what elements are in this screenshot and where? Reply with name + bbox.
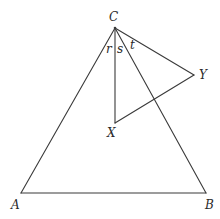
label-A: A <box>10 198 20 212</box>
angle-label-t: t <box>130 38 135 52</box>
label-C: C <box>109 10 118 24</box>
angle-labels: r s t <box>106 38 135 56</box>
segment-CB <box>115 28 206 193</box>
segments <box>21 27 206 193</box>
angle-label-s: s <box>117 42 123 56</box>
segment-XY <box>115 75 194 123</box>
label-X: X <box>106 126 116 140</box>
geometry-diagram: C A B X Y r s t <box>0 0 220 219</box>
segment-CY <box>115 28 194 75</box>
angle-label-r: r <box>106 42 113 56</box>
label-Y: Y <box>199 68 208 82</box>
label-B: B <box>204 198 214 212</box>
segment-AC <box>21 28 115 193</box>
point-labels: C A B X Y <box>10 10 214 212</box>
vertex-dot-C <box>114 27 117 30</box>
